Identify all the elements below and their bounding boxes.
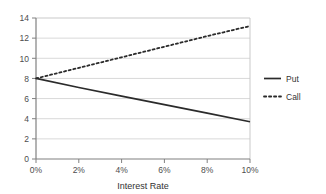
chart-legend: Put Call	[264, 74, 301, 102]
y-tick-label-4: 4	[24, 114, 29, 124]
chart-container: 14 12 10 8 6 4 2 0 0% 2% 4% 6% 8% 10%	[0, 0, 326, 194]
y-axis-tick-labels: 14 12 10 8 6 4 2 0	[20, 13, 30, 164]
y-tick-label-0: 0	[24, 154, 29, 164]
legend-label-call: Call	[286, 92, 301, 102]
x-tick-label-4: 4%	[115, 165, 128, 175]
x-tick-label-2: 2%	[73, 165, 86, 175]
x-axis-title: Interest Rate	[117, 181, 169, 191]
legend-item-call[interactable]: Call	[264, 92, 301, 102]
y-tick-label-8: 8	[24, 74, 29, 84]
x-tick-label-0: 0%	[30, 165, 43, 175]
line-chart: 14 12 10 8 6 4 2 0 0% 2% 4% 6% 8% 10%	[0, 0, 326, 194]
x-tick-label-10: 10%	[241, 165, 258, 175]
y-tick-label-10: 10	[20, 54, 30, 64]
y-tick-label-2: 2	[24, 134, 29, 144]
y-tick-label-14: 14	[20, 13, 30, 23]
plot-background	[36, 18, 250, 159]
y-tick-label-12: 12	[20, 33, 30, 43]
y-tick-label-6: 6	[24, 94, 29, 104]
legend-label-put: Put	[286, 74, 299, 84]
x-axis-ticks	[36, 159, 250, 163]
legend-item-put[interactable]: Put	[264, 74, 299, 84]
x-tick-label-6: 6%	[158, 165, 171, 175]
x-axis-tick-labels: 0% 2% 4% 6% 8% 10%	[30, 165, 259, 175]
x-tick-label-8: 8%	[201, 165, 214, 175]
